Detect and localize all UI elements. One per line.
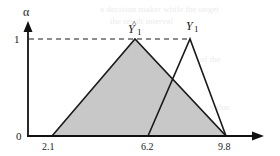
y-axis-label: α: [23, 5, 30, 19]
y-hat-1-sub: 1: [137, 27, 142, 37]
x-tick-9-8: 9.8: [218, 141, 231, 152]
fuzzy-membership-diagram: a decision maker while the target the re…: [0, 0, 280, 156]
x-tick-2-1: 2.1: [42, 141, 55, 152]
x-tick-6-2: 6.2: [141, 141, 154, 152]
x-axis-arrow-icon: [252, 132, 264, 141]
svg-text:of the: of the: [200, 54, 221, 64]
y-1-sub: 1: [194, 24, 199, 34]
svg-text:the result interval: the result interval: [110, 16, 173, 26]
svg-text:value: value: [210, 102, 230, 112]
y-axis-arrow-icon: [24, 21, 33, 32]
y-1-label: Y 1: [186, 19, 199, 34]
svg-text:a decision maker while the tar: a decision maker while the target: [100, 4, 220, 14]
y-tick-0: 0: [16, 130, 22, 142]
y-tick-1: 1: [14, 33, 20, 45]
y-1-base: Y: [186, 19, 194, 33]
